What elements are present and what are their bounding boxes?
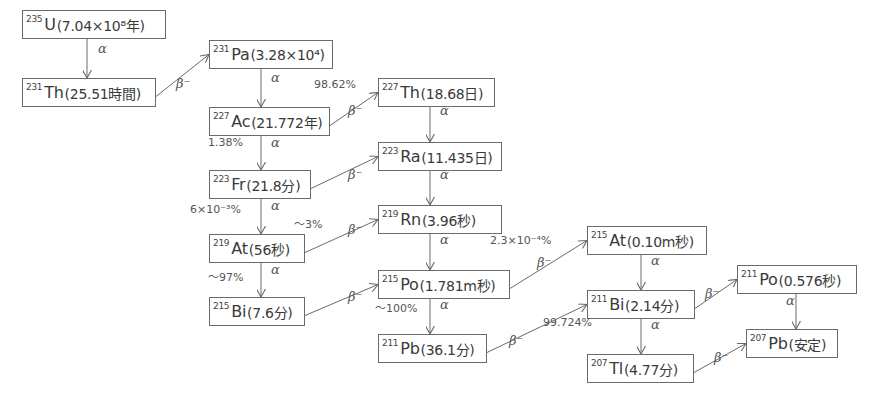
mass-number: 223 bbox=[382, 146, 398, 156]
mass-number: 231 bbox=[213, 44, 229, 54]
mass-number: 227 bbox=[213, 111, 229, 121]
element-symbol: Ra bbox=[400, 147, 420, 166]
half-life: (2.14分) bbox=[625, 295, 679, 315]
nuclide-box-pa231: 231Pa(3.28×10⁴) bbox=[209, 40, 333, 69]
alpha-label: α bbox=[440, 232, 449, 247]
nuclide-box-at215: 215At(0.10m秒) bbox=[587, 226, 707, 255]
half-life: (56秒) bbox=[249, 239, 290, 259]
element-symbol: Ac bbox=[231, 112, 250, 131]
beta-minus-label: β⁻ bbox=[348, 289, 362, 304]
element-symbol: Po bbox=[759, 270, 777, 289]
half-life: (3.28×10⁴) bbox=[250, 47, 324, 63]
mass-number: 215 bbox=[213, 301, 229, 311]
alpha-label: α bbox=[271, 262, 280, 277]
beta-minus-label: β⁻ bbox=[509, 333, 523, 348]
mass-number: 207 bbox=[591, 358, 607, 368]
half-life: (安定) bbox=[789, 334, 827, 354]
branching-ratio-label: 98.62% bbox=[314, 78, 356, 91]
mass-number: 219 bbox=[382, 209, 398, 219]
mass-number: 211 bbox=[591, 294, 607, 304]
beta-minus-label: β⁻ bbox=[348, 103, 362, 118]
nuclide-box-pb207: 207Pb(安定) bbox=[746, 329, 838, 358]
branching-ratio-label: ～3% bbox=[294, 215, 322, 231]
half-life: (7.04×10⁸年) bbox=[57, 15, 145, 35]
alpha-label: α bbox=[651, 253, 660, 268]
element-symbol: Th bbox=[44, 83, 63, 102]
branching-ratio-label: 6×10⁻³% bbox=[190, 203, 241, 216]
nuclide-box-th231: 231Th(25.51時間) bbox=[22, 78, 156, 107]
beta-minus-label: β⁻ bbox=[537, 255, 551, 270]
half-life: (0.10m秒) bbox=[627, 231, 694, 251]
nuclide-box-pb211: 211Pb(36.1分) bbox=[378, 334, 487, 363]
beta-decay-arrow bbox=[311, 157, 378, 189]
mass-number: 227 bbox=[382, 82, 398, 92]
element-symbol: Pb bbox=[400, 339, 419, 358]
half-life: (0.576秒) bbox=[779, 270, 842, 290]
half-life: (1.781m秒) bbox=[420, 275, 496, 295]
beta-minus-label: β⁻ bbox=[348, 167, 362, 182]
alpha-label: α bbox=[98, 41, 107, 56]
half-life: (21.772年) bbox=[251, 112, 322, 132]
beta-minus-label: β⁻ bbox=[348, 222, 362, 237]
nuclide-box-at219: 219At(56秒) bbox=[209, 234, 305, 263]
mass-number: 235 bbox=[26, 14, 42, 24]
mass-number: 215 bbox=[382, 274, 398, 284]
alpha-label: α bbox=[651, 317, 660, 332]
nuclide-box-th227: 227Th(18.68日) bbox=[378, 78, 495, 107]
mass-number: 223 bbox=[213, 174, 229, 184]
element-symbol: Tl bbox=[609, 359, 623, 378]
nuclide-box-rn219: 219Rn(3.96秒) bbox=[378, 205, 502, 234]
half-life: (25.51時間) bbox=[65, 83, 141, 103]
branching-ratio-label: 1.38% bbox=[208, 136, 243, 149]
element-symbol: Bi bbox=[609, 295, 624, 314]
nuclide-box-ac227: 227Ac(21.772年) bbox=[209, 107, 330, 136]
alpha-label: α bbox=[440, 103, 449, 118]
half-life: (21.8分) bbox=[246, 175, 300, 195]
element-symbol: Th bbox=[400, 83, 419, 102]
element-symbol: At bbox=[609, 231, 625, 250]
alpha-label: α bbox=[271, 135, 280, 150]
mass-number: 211 bbox=[741, 269, 757, 279]
element-symbol: At bbox=[231, 239, 247, 258]
branching-ratio-label: 2.3×10⁻⁴% bbox=[490, 234, 551, 247]
beta-minus-label: β⁻ bbox=[714, 350, 728, 365]
half-life: (18.68日) bbox=[421, 83, 484, 103]
element-symbol: U bbox=[44, 15, 55, 34]
half-life: (3.96秒) bbox=[422, 210, 476, 230]
element-symbol: Pb bbox=[768, 334, 787, 353]
half-life: (36.1分) bbox=[421, 339, 475, 359]
nuclide-box-tl207: 207Tl(4.77分) bbox=[587, 354, 694, 383]
nuclide-box-bi215: 215Bi(7.6分) bbox=[209, 297, 305, 326]
beta-minus-label: β⁻ bbox=[705, 286, 719, 301]
element-symbol: Pa bbox=[231, 45, 249, 64]
branching-ratio-label: 99.724% bbox=[543, 316, 592, 329]
element-symbol: Rn bbox=[400, 210, 421, 229]
mass-number: 207 bbox=[750, 333, 766, 343]
mass-number: 215 bbox=[591, 230, 607, 240]
mass-number: 219 bbox=[213, 238, 229, 248]
alpha-label: α bbox=[786, 293, 795, 308]
element-symbol: Fr bbox=[231, 175, 245, 194]
element-symbol: Bi bbox=[231, 302, 246, 321]
half-life: (7.6分) bbox=[247, 302, 292, 322]
branching-ratio-label: ～100% bbox=[375, 299, 417, 315]
beta-minus-label: β⁻ bbox=[176, 76, 190, 91]
element-symbol: Po bbox=[400, 275, 418, 294]
alpha-label: α bbox=[440, 167, 449, 182]
nuclide-box-fr223: 223Fr(21.8分) bbox=[209, 170, 311, 199]
alpha-label: α bbox=[440, 297, 449, 312]
mass-number: 231 bbox=[26, 82, 42, 92]
alpha-label: α bbox=[271, 70, 280, 85]
mass-number: 211 bbox=[382, 338, 398, 348]
nuclide-box-po215: 215Po(1.781m秒) bbox=[378, 270, 510, 299]
beta-decay-arrow bbox=[305, 285, 378, 316]
half-life: (4.77分) bbox=[624, 359, 678, 379]
half-life: (11.435日) bbox=[421, 147, 492, 167]
branching-ratio-label: ～97% bbox=[208, 268, 243, 284]
nuclide-box-bi211: 211Bi(2.14分) bbox=[587, 290, 695, 319]
decay-chain-diagram: 235U(7.04×10⁸年)231Th(25.51時間)231Pa(3.28×… bbox=[0, 0, 876, 398]
nuclide-box-u235: 235U(7.04×10⁸年) bbox=[22, 10, 166, 39]
alpha-label: α bbox=[271, 198, 280, 213]
nuclide-box-po211: 211Po(0.576秒) bbox=[737, 265, 857, 294]
